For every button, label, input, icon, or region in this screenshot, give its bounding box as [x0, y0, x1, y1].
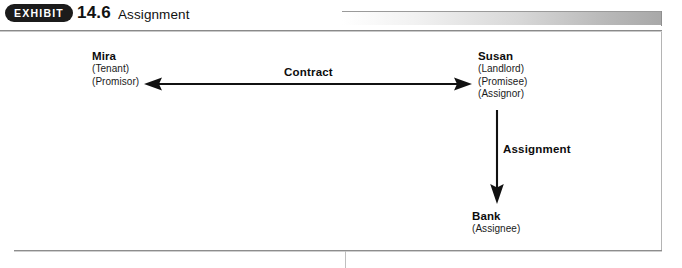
edge-arrow-assignment: [486, 110, 510, 206]
edge-arrow-contract: [140, 76, 476, 92]
node-susan-role-assignor: (Assignor): [478, 88, 527, 101]
frame-bottom-border-shadow: [14, 251, 662, 252]
frame-right-border: [661, 32, 662, 251]
node-susan-role-promisee: (Promisee): [478, 76, 527, 89]
exhibit-badge-label: EXHIBIT: [5, 4, 73, 22]
node-bank-name: Bank: [472, 209, 520, 223]
header-gradient-bar-right-edge: [661, 11, 662, 26]
page-title: Assignment: [118, 5, 190, 24]
diagram-node-bank: Bank (Assignee): [472, 209, 520, 236]
diagram-node-mira: Mira (Tenant) (Promisor): [92, 49, 139, 88]
header-gradient-bar: [342, 12, 662, 25]
node-mira-name: Mira: [92, 49, 139, 63]
node-susan-role-landlord: (Landlord): [478, 63, 527, 76]
exhibit-badge: EXHIBIT: [5, 4, 73, 22]
node-bank-role-assignee: (Assignee): [472, 223, 520, 236]
exhibit-number: 14.6: [77, 2, 111, 24]
diagram-node-susan: Susan (Landlord) (Promisee) (Assignor): [478, 49, 527, 101]
edge-label-assignment: Assignment: [503, 143, 571, 155]
node-susan-name: Susan: [478, 49, 527, 63]
diagram-frame: Mira (Tenant) (Promisor) Susan (Landlord…: [0, 32, 682, 268]
node-mira-role-tenant: (Tenant): [92, 63, 139, 76]
node-mira-role-promisor: (Promisor): [92, 76, 139, 89]
exhibit-header: EXHIBIT 14.6 Assignment: [0, 0, 682, 32]
frame-bottom-tick-mark: [345, 251, 346, 268]
